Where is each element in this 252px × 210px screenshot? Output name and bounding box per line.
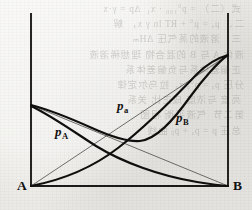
raoult-reference-line-a [31,105,228,186]
label-total-pressure: pa [117,96,128,115]
label-partial-pressure-a: pA [55,122,68,141]
label-pa-symbol: p [55,124,62,139]
label-pb-subscript: B [183,117,189,127]
label-ptotal-symbol: p [117,98,124,113]
label-pa-subscript: A [62,131,68,141]
label-ptotal-subscript: a [124,105,128,115]
raoult-reference-line-b [31,55,228,186]
axis-corner-label-b: B [233,178,242,194]
vapour-pressure-diagram: 式（二） = p°₁₀₀ · x₁ ∆p = γ·x 二、 μₐ = μ° + … [0,0,252,210]
label-partial-pressure-b: pB [176,108,189,127]
axis-corner-label-a: A [17,178,27,194]
label-pb-symbol: p [176,110,183,125]
